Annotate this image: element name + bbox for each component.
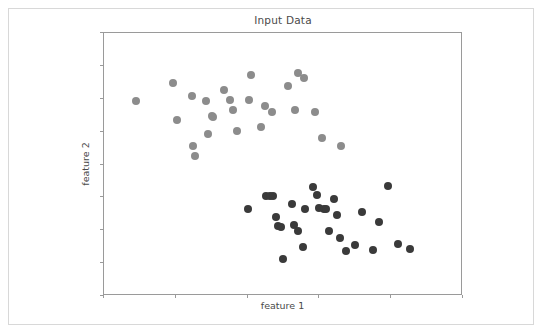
scatter-point xyxy=(358,208,366,216)
y-axis-tick xyxy=(100,98,103,99)
scatter-point xyxy=(299,243,307,251)
y-axis-tick xyxy=(100,164,103,165)
scatter-point xyxy=(369,246,377,254)
scatter-point xyxy=(311,108,319,116)
x-axis-tick xyxy=(247,295,248,298)
scatter-point xyxy=(318,134,326,142)
scatter-point xyxy=(245,96,253,104)
scatter-point xyxy=(333,211,341,219)
y-axis-tick xyxy=(100,229,103,230)
figure-canvas: Input Data feature 1 feature 2 xyxy=(0,0,543,334)
scatter-point xyxy=(202,97,210,105)
scatter-point xyxy=(191,152,199,160)
y-axis-label: feature 2 xyxy=(80,142,91,185)
scatter-point xyxy=(247,71,255,79)
scatter-point xyxy=(284,82,292,90)
scatter-point xyxy=(351,241,359,249)
scatter-point xyxy=(229,106,237,114)
scatter-point xyxy=(325,227,333,235)
scatter-point xyxy=(301,205,309,213)
y-axis-tick xyxy=(100,196,103,197)
scatter-point xyxy=(220,86,228,94)
y-axis-tick xyxy=(100,65,103,66)
scatter-point xyxy=(188,92,196,100)
scatter-points-layer xyxy=(104,33,461,294)
scatter-point xyxy=(384,182,392,190)
scatter-point xyxy=(269,192,277,200)
scatter-point xyxy=(226,96,234,104)
scatter-point xyxy=(330,195,338,203)
scatter-point xyxy=(279,255,287,263)
scatter-point xyxy=(394,240,402,248)
scatter-point xyxy=(173,116,181,124)
scatter-point xyxy=(342,247,350,255)
scatter-point xyxy=(132,97,140,105)
scatter-point xyxy=(291,106,299,114)
x-axis-tick xyxy=(318,295,319,298)
x-axis-tick xyxy=(390,295,391,298)
scatter-point xyxy=(233,127,241,135)
scatter-point xyxy=(375,218,383,226)
scatter-point xyxy=(272,213,280,221)
y-axis-tick xyxy=(100,32,103,33)
x-axis-tick xyxy=(103,295,104,298)
scatter-point xyxy=(300,74,308,82)
scatter-point xyxy=(257,123,265,131)
y-axis-tick xyxy=(100,131,103,132)
chart-title: Input Data xyxy=(103,14,463,26)
scatter-point xyxy=(406,245,414,253)
scatter-point xyxy=(169,79,177,87)
scatter-point xyxy=(294,227,302,235)
plot-area xyxy=(103,32,462,295)
x-axis-tick xyxy=(462,295,463,298)
scatter-point xyxy=(313,191,321,199)
y-axis-tick xyxy=(100,295,103,296)
y-axis-tick xyxy=(100,262,103,263)
scatter-point xyxy=(322,205,330,213)
y-axis-label-wrapper: feature 2 xyxy=(78,32,92,295)
scatter-point xyxy=(189,142,197,150)
scatter-point xyxy=(244,205,252,213)
scatter-point xyxy=(209,113,217,121)
scatter-point xyxy=(204,130,212,138)
scatter-point xyxy=(337,142,345,150)
scatter-point xyxy=(268,108,276,116)
scatter-point xyxy=(288,200,296,208)
scatter-point xyxy=(336,234,344,242)
x-axis-tick xyxy=(175,295,176,298)
x-axis-label: feature 1 xyxy=(103,300,462,311)
scatter-point xyxy=(277,223,285,231)
